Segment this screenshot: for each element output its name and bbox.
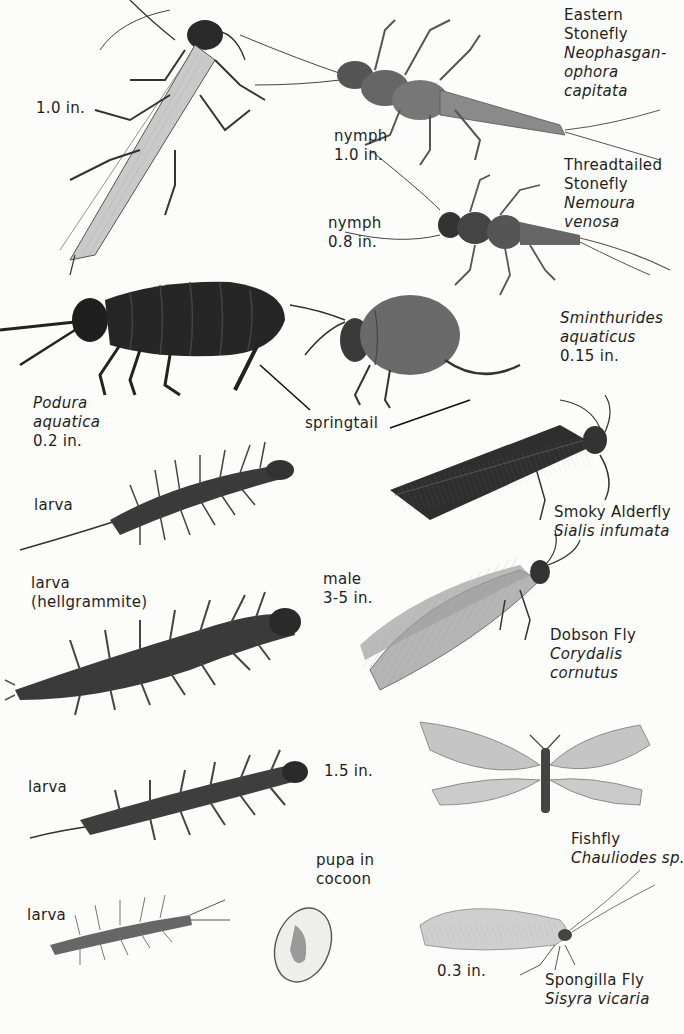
label-hellgrammite: larva(hellgrammite)	[31, 574, 147, 612]
label-line: Stonefly	[564, 175, 662, 194]
label-eastern-nymph-size: nymph1.0 in.	[334, 127, 388, 165]
fishfly-larva-illustration	[30, 750, 308, 840]
label-line: capitata	[564, 82, 667, 101]
label-line: 0.3 in.	[437, 962, 486, 981]
smoky-alderfly-illustration	[390, 395, 610, 520]
label-eastern-stonefly: EasternStoneflyNeophasgan-ophoracapitata	[564, 6, 667, 101]
field-guide-plate: EasternStoneflyNeophasgan-ophoracapitata…	[0, 0, 684, 1034]
label-line: nymph	[334, 127, 388, 146]
label-line: Fishfly	[571, 830, 684, 849]
label-line: 0.2 in.	[33, 432, 100, 451]
label-fishfly-larva-size: 1.5 in.	[324, 762, 373, 781]
label-spongilla-size: 0.3 in.	[437, 962, 486, 981]
label-line: 0.15 in.	[560, 347, 663, 366]
label-threadtailed-stonefly: ThreadtailedStoneflyNemouravenosa	[564, 156, 662, 232]
spongilla-fly-illustration	[420, 870, 655, 975]
label-line: Sialis infumata	[554, 522, 671, 541]
dobson-fly-illustration	[360, 530, 580, 690]
label-threadtailed-nymph-size: nymph0.8 in.	[328, 214, 382, 252]
label-adult-stonefly-size: 1.0 in.	[36, 99, 85, 118]
label-line: aquatica	[33, 413, 100, 432]
label-line: aquaticus	[560, 328, 663, 347]
label-dobson-male-size: male3-5 in.	[323, 570, 373, 608]
label-line: Neophasgan-	[564, 44, 667, 63]
label-line: Chauliodes sp.	[571, 849, 684, 868]
label-line: 1.0 in.	[334, 146, 388, 165]
label-line: springtail	[305, 414, 378, 433]
label-line: 1.0 in.	[36, 99, 85, 118]
label-springtail: springtail	[305, 414, 378, 433]
label-line: Nemoura	[564, 194, 662, 213]
label-line: Corydalis	[550, 645, 636, 664]
label-line: larva	[27, 906, 66, 925]
label-line: (hellgrammite)	[31, 593, 147, 612]
label-line: 0.8 in.	[328, 233, 382, 252]
label-sminthurides: Sminthuridesaquaticus0.15 in.	[560, 309, 663, 366]
label-dobson-fly: Dobson FlyCorydaliscornutus	[550, 626, 636, 683]
label-line: cornutus	[550, 664, 636, 683]
label-fishfly: FishflyChauliodes sp.	[571, 830, 684, 868]
label-pupa: pupa incocoon	[316, 851, 374, 889]
label-line: male	[323, 570, 373, 589]
label-podura: Poduraaquatica0.2 in.	[33, 394, 100, 451]
label-line: Eastern	[564, 6, 667, 25]
podura-springtail-illustration	[0, 282, 310, 410]
label-line: nymph	[328, 214, 382, 233]
label-line: Podura	[33, 394, 100, 413]
spongilla-larva-illustration	[50, 895, 230, 965]
label-line: venosa	[564, 213, 662, 232]
label-line: Threadtailed	[564, 156, 662, 175]
label-smoky-alderfly: Smoky AlderflySialis infumata	[554, 503, 671, 541]
label-line: Dobson Fly	[550, 626, 636, 645]
label-line: larva	[28, 778, 67, 797]
label-spongilla-larva: larva	[27, 906, 66, 925]
pupa-cocoon-illustration	[265, 900, 342, 990]
label-line: larva	[34, 496, 73, 515]
adult-stonefly-illustration	[60, 0, 265, 275]
label-line: Sisyra vicaria	[545, 990, 650, 1009]
label-line: 1.5 in.	[324, 762, 373, 781]
label-line: Sminthurides	[560, 309, 663, 328]
label-line: ophora	[564, 63, 667, 82]
label-alderfly-larva: larva	[34, 496, 73, 515]
fishfly-illustration	[420, 722, 650, 813]
label-line: larva	[31, 574, 147, 593]
label-line: Smoky Alderfly	[554, 503, 671, 522]
label-line: 3-5 in.	[323, 589, 373, 608]
label-line: Spongilla Fly	[545, 971, 650, 990]
label-spongilla-fly: Spongilla FlySisyra vicaria	[545, 971, 650, 1009]
label-line: Stonefly	[564, 25, 667, 44]
label-line: pupa in	[316, 851, 374, 870]
label-fishfly-larva: larva	[28, 778, 67, 797]
label-line: cocoon	[316, 870, 374, 889]
sminthurides-springtail-illustration	[290, 295, 520, 428]
